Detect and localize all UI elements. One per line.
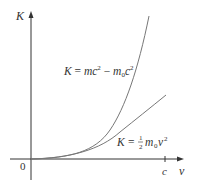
cls-t1: m: [145, 136, 153, 148]
cls-frac-den: 2: [139, 143, 143, 151]
rel-t1: mc: [84, 65, 97, 77]
y-axis-label: K: [15, 9, 25, 23]
classical-formula-label: K = 1 2 m 0 v 2: [116, 134, 168, 151]
c-tick-label: c: [162, 165, 167, 177]
cls-frac-num: 1: [139, 134, 143, 142]
cls-eq: =: [125, 136, 137, 148]
x-axis-label: v: [179, 164, 185, 178]
rel-t2: m: [113, 65, 121, 77]
rel-minus: −: [101, 65, 113, 77]
x-axis-arrow-icon: [177, 157, 184, 162]
relativistic-formula-label: K = mc2 − m0c2: [63, 64, 134, 79]
origin-label: 0: [20, 160, 26, 172]
classical-curve: [31, 95, 166, 159]
y-axis-arrow-icon: [29, 11, 34, 18]
rel-t3-exp: 2: [130, 64, 134, 72]
cls-t2-exp: 2: [164, 135, 168, 143]
rel-eq: =: [72, 65, 84, 77]
kinetic-energy-diagram: K v 0 c K = mc2 − m0c2 K = 1 2 m 0 v 2: [0, 0, 198, 187]
